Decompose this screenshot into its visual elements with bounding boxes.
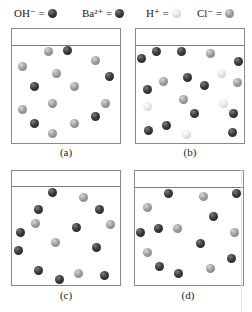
- dark-ion-ball-icon: [30, 82, 39, 91]
- dark-ion-ball-icon: [91, 112, 100, 121]
- dark-ion-ball-icon: [16, 228, 25, 237]
- cl-ion-ball-icon: [91, 56, 100, 65]
- cl-ion-ball-icon: [179, 95, 188, 104]
- legend-cl-label: Cl⁻ =: [197, 7, 222, 20]
- cl-ion-ball-icon: [74, 269, 83, 278]
- legend-cl: Cl⁻ =: [197, 7, 234, 20]
- ion-legend: OH⁻ = Ba²⁺ = H⁺ = Cl⁻ =: [0, 7, 252, 21]
- dark-ion-ball-icon: [34, 266, 43, 275]
- dark-ion-ball-icon: [229, 109, 238, 118]
- dark-ion-ball-icon: [227, 254, 236, 263]
- ba-ion-ball-icon: [115, 9, 124, 18]
- panel-caption-b: (b): [170, 146, 210, 158]
- panel-caption-d: (d): [168, 289, 208, 301]
- dark-ion-ball-icon: [14, 246, 23, 255]
- h-ion-ball-icon: [172, 9, 181, 18]
- beaker-panel-c: [11, 170, 121, 286]
- dark-ion-ball-icon: [100, 271, 109, 280]
- h-ion-ball-icon: [217, 69, 226, 78]
- cl-ion-ball-icon: [52, 69, 61, 78]
- dark-ion-ball-icon: [105, 72, 114, 81]
- cl-ion-ball-icon: [159, 77, 168, 86]
- panel-caption-c: (c): [46, 289, 86, 301]
- dark-ion-ball-icon: [95, 205, 104, 214]
- panel-caption-a: (a): [46, 146, 86, 158]
- legend-h: H⁺ =: [146, 7, 181, 20]
- cl-ion-ball-icon: [173, 224, 182, 233]
- dark-ion-ball-icon: [63, 46, 72, 55]
- legend-oh: OH⁻ =: [14, 7, 57, 20]
- h-ion-ball-icon: [219, 99, 228, 108]
- dark-ion-ball-icon: [209, 212, 218, 221]
- dark-ion-ball-icon: [177, 47, 186, 56]
- legend-ba: Ba²⁺ =: [82, 7, 124, 20]
- cl-ion-ball-icon: [101, 99, 110, 108]
- cl-ion-ball-icon: [106, 220, 115, 229]
- dark-ion-ball-icon: [155, 262, 164, 271]
- dark-ion-ball-icon: [200, 81, 209, 90]
- dark-ion-ball-icon: [232, 189, 241, 198]
- cl-ion-ball-icon: [44, 47, 53, 56]
- dark-ion-ball-icon: [164, 189, 173, 198]
- cl-ion-ball-icon: [233, 78, 242, 87]
- dark-ion-ball-icon: [183, 73, 192, 82]
- dark-ion-ball-icon: [30, 119, 39, 128]
- cl-ion-ball-icon: [18, 105, 27, 114]
- dark-ion-ball-icon: [137, 54, 146, 63]
- dark-ion-ball-icon: [152, 47, 161, 56]
- dark-ion-ball-icon: [234, 57, 243, 66]
- cl-ion-ball-icon: [199, 192, 208, 201]
- cl-ion-ball-icon: [18, 62, 27, 71]
- dark-ion-ball-icon: [144, 126, 153, 135]
- cl-ion-ball-icon: [70, 82, 79, 91]
- dark-ion-ball-icon: [34, 205, 43, 214]
- dark-ion-ball-icon: [48, 188, 57, 197]
- cl-ion-ball-icon: [143, 203, 152, 212]
- cl-ion-ball-icon: [230, 228, 239, 237]
- dark-ion-ball-icon: [143, 85, 152, 94]
- cl-ion-ball-icon: [206, 264, 215, 273]
- cl-ion-ball-icon: [70, 119, 79, 128]
- liquid-surface-line: [136, 45, 244, 46]
- cl-ion-ball-icon: [51, 238, 60, 247]
- oh-ion-ball-icon: [48, 9, 57, 18]
- legend-h-label: H⁺ =: [146, 7, 169, 20]
- dark-ion-ball-icon: [228, 128, 237, 137]
- cl-ion-ball-icon: [79, 193, 88, 202]
- dark-ion-ball-icon: [136, 228, 145, 237]
- legend-oh-label: OH⁻ =: [14, 7, 45, 20]
- cl-ion-ball-icon: [143, 248, 152, 257]
- dark-ion-ball-icon: [190, 109, 199, 118]
- dark-ion-ball-icon: [154, 224, 163, 233]
- dark-ion-ball-icon: [162, 121, 171, 130]
- cl-ion-ball-icon: [48, 99, 57, 108]
- dark-ion-ball-icon: [196, 239, 205, 248]
- cl-ion-ball-icon: [225, 9, 234, 18]
- dark-ion-ball-icon: [55, 275, 64, 284]
- liquid-surface-line: [135, 187, 243, 188]
- dark-ion-ball-icon: [92, 243, 101, 252]
- cl-ion-ball-icon: [206, 49, 215, 58]
- beaker-panel-d: [134, 170, 244, 286]
- legend-ba-label: Ba²⁺ =: [82, 7, 112, 20]
- dark-ion-ball-icon: [174, 269, 183, 278]
- cl-ion-ball-icon: [48, 129, 57, 138]
- h-ion-ball-icon: [182, 130, 191, 139]
- h-ion-ball-icon: [143, 102, 152, 111]
- liquid-surface-line: [12, 186, 120, 187]
- cl-ion-ball-icon: [31, 219, 40, 228]
- page-edge-divider: [241, 170, 242, 312]
- dark-ion-ball-icon: [72, 223, 81, 232]
